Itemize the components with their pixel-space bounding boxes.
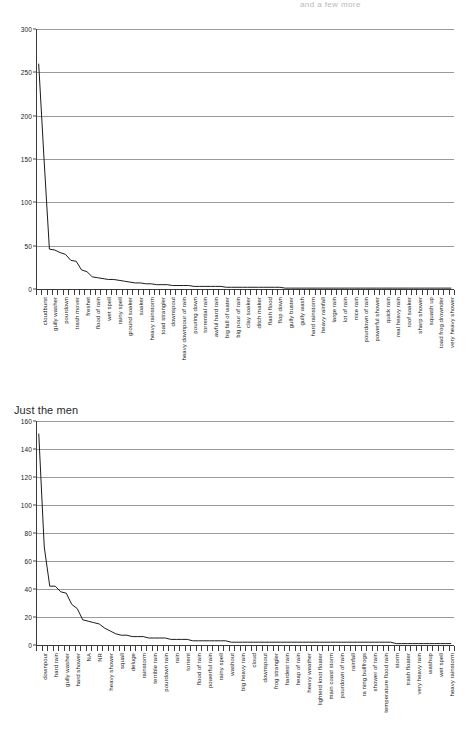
x-axis-tick-mark — [355, 646, 356, 651]
x-axis-tick-mark — [410, 646, 411, 651]
x-axis-tick-mark — [174, 646, 175, 651]
plot-area-top: 050100150200250300 cloudburstgully washe… — [14, 29, 454, 289]
x-axis-tick-mark — [74, 290, 75, 295]
y-axis-tick-label: 160 — [21, 418, 32, 425]
x-axis-tick-mark — [406, 290, 407, 295]
x-axis-tick-mark — [379, 290, 380, 295]
x-axis-tick-label: frog strangler — [273, 653, 279, 689]
x-axis-tick-label: big pour of rain — [235, 297, 241, 338]
x-axis-tick-label: torrent — [185, 653, 191, 671]
x-axis-tick-mark — [278, 646, 279, 651]
x-axis-tick-mark — [234, 290, 235, 295]
y-axis-tick-label: 0 — [28, 642, 32, 649]
x-axis-tick-mark — [90, 290, 91, 295]
x-axis-tick-label: rainy spell — [117, 297, 123, 325]
x-axis-tick-mark — [108, 646, 109, 651]
x-axis-tick-label: trash floater — [405, 653, 411, 685]
series-polyline-bottom — [39, 434, 452, 644]
x-axis-tick-label: hardest rain — [284, 653, 290, 685]
x-axis-tick-label: wet spell — [438, 653, 444, 677]
x-axis-tick-label: ditch maker — [256, 297, 262, 329]
x-axis-tick-mark — [84, 290, 85, 295]
x-axis-tick-mark — [358, 290, 359, 295]
series-layer-bottom — [36, 421, 454, 645]
x-axis-tick-mark — [141, 646, 142, 651]
x-axis-tick-label: trash mover — [74, 297, 80, 329]
plot-area-bottom: 020406080100120140160 downpourhard raing… — [14, 421, 454, 645]
line-series-bottom — [36, 421, 454, 645]
x-axis-tick-label: downpour — [42, 653, 48, 680]
x-axis-tick-mark — [405, 646, 406, 651]
x-axis-tick-mark — [300, 646, 301, 651]
x-axis-tick-mark — [421, 646, 422, 651]
x-axis-tick-mark — [207, 290, 208, 295]
x-axis-tick-label: soaker — [138, 297, 144, 315]
x-axis-tick-label: very heavy rain — [416, 653, 422, 694]
x-axis-ticks-bottom — [36, 646, 454, 651]
x-axis-tick-mark — [41, 290, 42, 295]
x-axis-tick-label: pourdown of rain — [339, 653, 345, 699]
x-axis-tick-label: deluge — [130, 653, 136, 671]
x-axis-tick-label: pourdown rain — [163, 653, 169, 692]
x-axis-tick-mark — [363, 290, 364, 295]
x-axis-tick-mark — [299, 290, 300, 295]
x-axis-tick-mark — [102, 646, 103, 651]
x-axis-tick-mark — [438, 290, 439, 295]
x-axis-tick-mark — [64, 646, 65, 651]
series-polyline-top — [39, 64, 452, 288]
x-axis-tick-mark — [135, 646, 136, 651]
x-axis-tick-label: squash up — [428, 297, 434, 325]
x-axis-tick-mark — [201, 646, 202, 651]
x-axis-tick-label: squall — [119, 653, 125, 669]
x-axis-tick-label: toad frog drownder — [438, 297, 444, 348]
y-axis-labels-bottom: 020406080100120140160 — [14, 421, 36, 645]
x-axis-tick-mark — [185, 646, 186, 651]
x-axis-tick-mark — [443, 646, 444, 651]
x-axis-tick-mark — [130, 646, 131, 651]
x-axis-tick-mark — [213, 290, 214, 295]
x-axis-tick-mark — [196, 646, 197, 651]
x-axis-tick-mark — [52, 290, 53, 295]
x-axis-tick-label: big heavy rain — [240, 653, 246, 691]
x-axis-tick-mark — [224, 290, 225, 295]
x-axis-tick-mark — [309, 290, 310, 295]
x-axis-tick-label: gully washer — [52, 297, 58, 331]
x-axis-tick-mark — [223, 646, 224, 651]
chart-just-the-men: Just the men 020406080100120140160 downp… — [0, 404, 467, 744]
plot-wrap-bottom: 020406080100120140160 downpourhard raing… — [14, 421, 467, 645]
x-axis-tick-mark — [157, 646, 158, 651]
x-axis-tick-mark — [272, 290, 273, 295]
x-axis-tick-mark — [454, 290, 455, 295]
x-axis-tick-mark — [306, 646, 307, 651]
x-axis-tick-mark — [250, 290, 251, 295]
x-axis-tick-mark — [245, 646, 246, 651]
x-axis-tick-mark — [341, 290, 342, 295]
x-axis-tick-label: powerful shower — [374, 297, 380, 341]
x-axis-tick-mark — [454, 646, 455, 651]
x-axis-tick-mark — [113, 646, 114, 651]
x-axis-tick-label: freshet — [85, 297, 91, 316]
x-axis-tick-label: gully washer — [64, 653, 70, 687]
x-axis-tick-mark — [293, 290, 294, 295]
x-axis-tick-label: real heavy rain — [395, 297, 401, 337]
x-axis-labels-top: cloudburstgully washerpourdowntrash move… — [36, 297, 454, 392]
x-axis-tick-mark — [400, 290, 401, 295]
x-axis-tick-mark — [36, 646, 37, 651]
x-axis-tick-mark — [170, 290, 171, 295]
x-axis-tick-label: flood of rain — [95, 297, 101, 329]
x-axis-tick-label: heavy shower — [108, 653, 114, 691]
x-axis-tick-label: terrible rain — [152, 653, 158, 684]
x-axis-tick-mark — [42, 646, 43, 651]
x-axis-ticks-top — [36, 290, 454, 295]
x-axis-tick-label: heavy rainstorm — [149, 297, 155, 340]
x-axis-tick-label: pouring down — [192, 297, 198, 334]
x-axis-tick-label: NR — [97, 653, 103, 662]
x-axis-tick-mark — [344, 646, 345, 651]
x-axis-tick-mark — [331, 290, 332, 295]
plot-wrap-top: 050100150200250300 cloudburstgully washe… — [14, 29, 467, 289]
y-axis-tick-label: 60 — [25, 558, 32, 565]
x-axis-tick-mark — [159, 290, 160, 295]
x-axis-tick-mark — [374, 290, 375, 295]
x-axis-tick-mark — [124, 646, 125, 651]
x-axis-tick-mark — [240, 290, 241, 295]
